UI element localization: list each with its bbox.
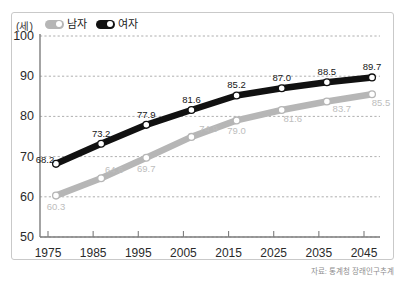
data-label-female: 73.2 [84,129,118,139]
data-point-female [188,107,195,114]
source-note: 자료: 통계청 장래인구추계 [311,265,394,276]
y-axis-tick-label: 60 [6,191,34,204]
x-axis-tick-label: 2005 [163,247,203,259]
series-line-female [56,77,372,163]
data-label-female: 77.9 [129,110,163,120]
data-point-female [369,74,376,81]
data-label-male: 69.7 [129,164,163,174]
x-axis-tick-label: 2015 [209,247,249,259]
data-label-male: 81.6 [276,114,310,124]
data-point-male [98,175,105,182]
data-point-female [278,85,285,92]
y-axis-tick-label: 100 [6,30,34,43]
x-axis-tick-label: 1995 [118,247,158,259]
data-label-male: 83.7 [325,104,359,114]
data-point-female [143,121,150,128]
plot-svg [0,0,406,283]
y-axis-tick-label: 50 [6,231,34,244]
data-label-female: 87.0 [265,73,299,83]
data-point-male [143,154,150,161]
life-expectancy-chart-figure: (세) 남자 여자 자료: 통계청 장래인구추계 100908070605019… [0,0,406,283]
data-label-female: 88.5 [310,67,344,77]
data-label-female: 85.2 [220,80,254,90]
data-point-female [98,140,105,147]
x-axis-tick-label: 2035 [299,247,339,259]
y-axis-tick-label: 90 [6,70,34,83]
x-axis-tick-label: 2045 [344,247,384,259]
x-axis-tick-label: 1985 [73,247,113,259]
data-label-female: 81.6 [174,95,208,105]
plot-area [0,0,406,283]
x-axis-tick-label: 1975 [28,247,68,259]
data-label-female: 68.2 [28,155,62,165]
data-label-female: 89.7 [355,62,389,72]
y-axis-tick-label: 80 [6,110,34,123]
data-point-male [233,117,240,124]
data-point-male [188,134,195,141]
data-point-female [323,79,330,86]
data-point-male [53,192,60,199]
data-label-male: 64.6 [97,165,131,175]
data-label-male: 85.5 [364,98,398,108]
data-point-female [233,92,240,99]
data-label-male: 60.3 [39,202,73,212]
x-axis-tick-label: 2025 [254,247,294,259]
data-label-male: 79.0 [220,126,254,136]
